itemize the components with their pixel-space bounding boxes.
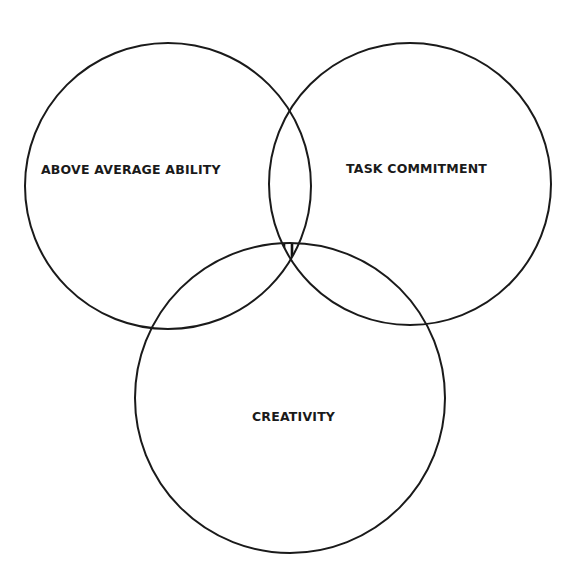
label-above-average-ability: ABOVE AVERAGE ABILITY	[41, 162, 221, 177]
venn-svg	[0, 0, 569, 572]
label-task-commitment: TASK COMMITMENT	[346, 161, 487, 176]
venn-diagram: ABOVE AVERAGE ABILITY TASK COMMITMENT CR…	[0, 0, 569, 572]
circle-creativity	[135, 243, 445, 553]
label-creativity: CREATIVITY	[252, 409, 335, 424]
